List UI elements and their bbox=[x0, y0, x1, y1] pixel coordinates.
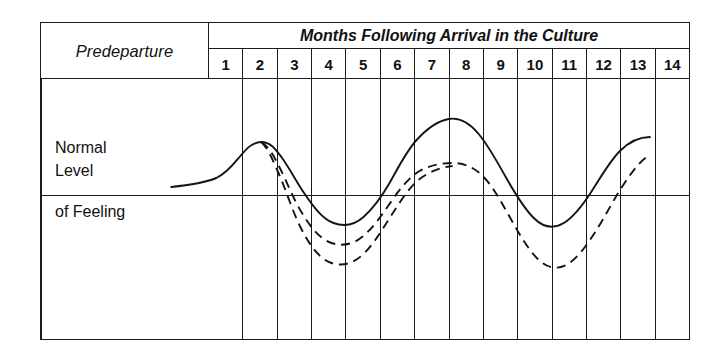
figure-page: Predeparture Months Following Arrival in… bbox=[0, 0, 722, 360]
month-cell-9: 9 bbox=[484, 49, 518, 79]
months-header-label: Months Following Arrival in the Culture bbox=[300, 27, 598, 45]
predeparture-header-cell: Predeparture bbox=[41, 23, 209, 79]
culture-adjustment-figure: Predeparture Months Following Arrival in… bbox=[40, 22, 690, 340]
month-cell-6: 6 bbox=[381, 49, 415, 79]
gridline-col-3 bbox=[278, 79, 312, 339]
gridline-col-14 bbox=[656, 79, 689, 339]
gridline-col-11 bbox=[553, 79, 587, 339]
month-cell-2: 2 bbox=[243, 49, 277, 79]
gridline-col-6 bbox=[381, 79, 415, 339]
month-cell-4: 4 bbox=[312, 49, 346, 79]
normal-level-caption: Normal Level bbox=[55, 137, 107, 182]
gridline-col-7 bbox=[415, 79, 449, 339]
month-cell-10: 10 bbox=[518, 49, 552, 79]
normal-level-baseline bbox=[41, 195, 689, 196]
month-cell-5: 5 bbox=[346, 49, 380, 79]
of-feeling-caption: of Feeling bbox=[55, 201, 125, 224]
gridline-col-4 bbox=[312, 79, 346, 339]
gridline-col-1 bbox=[209, 79, 243, 339]
plot-area: Normal Level of Feeling bbox=[41, 79, 689, 339]
gridline-col-9 bbox=[484, 79, 518, 339]
month-cell-14: 14 bbox=[656, 49, 689, 79]
month-cell-8: 8 bbox=[450, 49, 484, 79]
table-header: Predeparture Months Following Arrival in… bbox=[41, 23, 689, 79]
gridline-col-12 bbox=[587, 79, 621, 339]
gridline-col-13 bbox=[621, 79, 655, 339]
gridline-col-10 bbox=[518, 79, 552, 339]
months-header-cell: Months Following Arrival in the Culture bbox=[209, 23, 689, 49]
month-cell-12: 12 bbox=[587, 49, 621, 79]
predeparture-label: Predeparture bbox=[76, 42, 174, 61]
month-number-row: 1 2 3 4 5 6 7 8 9 10 11 12 13 14 bbox=[209, 49, 689, 79]
month-cell-7: 7 bbox=[415, 49, 449, 79]
month-gridlines bbox=[209, 79, 689, 339]
month-cell-11: 11 bbox=[553, 49, 587, 79]
gridline-col-8 bbox=[450, 79, 484, 339]
month-cell-3: 3 bbox=[278, 49, 312, 79]
gridline-col-2 bbox=[243, 79, 277, 339]
month-cell-1: 1 bbox=[209, 49, 243, 79]
predeparture-divider bbox=[41, 79, 42, 339]
month-cell-13: 13 bbox=[621, 49, 655, 79]
gridline-col-5 bbox=[346, 79, 380, 339]
